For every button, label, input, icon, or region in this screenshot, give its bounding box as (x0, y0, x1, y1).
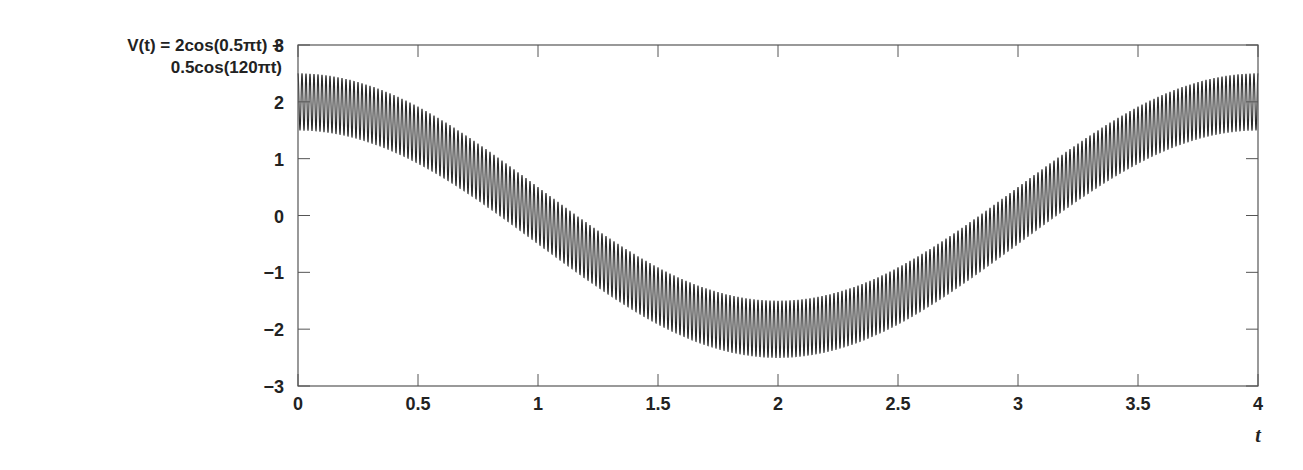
x-tick-label: 0.5 (405, 394, 430, 414)
y-tick-label: −3 (263, 377, 284, 397)
y-tick-label: 3 (274, 36, 284, 56)
x-tick-label: 3.5 (1125, 394, 1150, 414)
signal-line (298, 73, 1258, 357)
line-chart: 00.511.522.533.543210−1−2−3 t (0, 0, 1303, 470)
x-axis-label: t (1255, 424, 1262, 446)
y-tick-label: −1 (263, 263, 284, 283)
x-tick-label: 1.5 (645, 394, 670, 414)
x-tick-label: 1 (533, 394, 543, 414)
axes (298, 45, 1258, 386)
x-tick-label: 2.5 (885, 394, 910, 414)
y-tick-label: −2 (263, 320, 284, 340)
plot-area (298, 73, 1258, 357)
y-tick-label: 2 (274, 93, 284, 113)
tick-labels: 00.511.522.533.543210−1−2−3 (263, 36, 1263, 414)
x-tick-label: 0 (293, 394, 303, 414)
y-tick-label: 0 (274, 207, 284, 227)
x-tick-label: 3 (1013, 394, 1023, 414)
plot-frame (298, 45, 1258, 386)
y-tick-label: 1 (274, 150, 284, 170)
x-tick-label: 2 (773, 394, 783, 414)
x-tick-label: 4 (1253, 394, 1263, 414)
